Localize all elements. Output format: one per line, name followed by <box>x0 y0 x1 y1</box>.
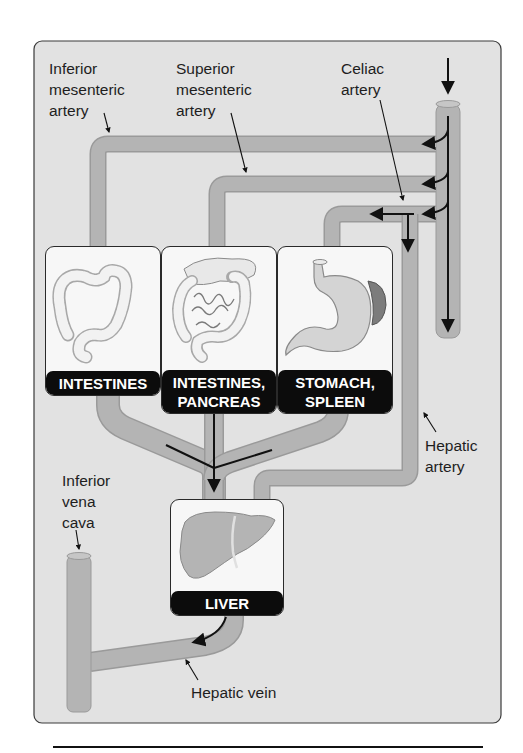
footer-rule <box>53 746 483 748</box>
liver-icon <box>171 500 284 594</box>
organ-caption: STOMACH, SPLEEN <box>278 370 392 413</box>
label-celiac-artery: Celiac artery <box>341 58 384 100</box>
label-superior-mesenteric-artery: Superior mesenteric artery <box>176 58 252 121</box>
organ-caption: INTESTINES, PANCREAS <box>162 370 276 413</box>
stomach-spleen-icon <box>278 247 393 375</box>
organ-box-intestines: INTESTINES <box>45 246 161 396</box>
label-inferior-mesenteric-artery: Inferior mesenteric artery <box>49 58 125 121</box>
label-inferior-vena-cava: Inferior vena cava <box>62 470 110 533</box>
label-hepatic-artery: Hepatic artery <box>425 435 478 477</box>
organ-box-stomach-spleen: STOMACH, SPLEEN <box>277 246 393 414</box>
label-hepatic-vein: Hepatic vein <box>191 682 276 703</box>
organ-caption: INTESTINES <box>46 371 160 395</box>
intestines-pancreas-icon <box>162 247 277 375</box>
organ-box-liver: LIVER <box>170 499 284 616</box>
inferior-vena-cava-vessel <box>67 553 91 713</box>
organ-box-intestines-pancreas: INTESTINES, PANCREAS <box>161 246 277 414</box>
large-intestine-icon <box>46 247 161 375</box>
organ-caption: LIVER <box>171 591 283 615</box>
